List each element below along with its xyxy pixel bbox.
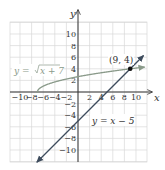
graph: −10−8−6−4−2246810108642−2−4−6−8−10 y x y…	[0, 0, 165, 170]
x-tick-label: 2	[87, 93, 92, 102]
x-tick-label: −6	[37, 93, 49, 102]
x-tick-label: 6	[110, 93, 115, 102]
sqrt-eq-body: x + 7	[40, 66, 64, 76]
y-axis-label: y	[69, 8, 76, 19]
x-tick-label: −8	[26, 93, 38, 102]
y-tick-label: 6	[71, 53, 76, 62]
svg-text:y =: y =	[13, 66, 30, 76]
point-label: (9, 4)	[109, 55, 133, 65]
y-tick-label: 4	[71, 65, 76, 74]
x-axis-label: x	[154, 92, 160, 103]
y-tick-label: −10	[59, 146, 76, 155]
intersection-point: (9, 4)	[108, 54, 134, 65]
linear-eq-text: y = x − 5	[91, 116, 135, 126]
y-tick-label: −4	[64, 111, 76, 120]
y-tick-label: 10	[66, 30, 76, 39]
x-tick-label: −4	[49, 93, 61, 102]
sqrt-equation-label: y = x + 7	[12, 64, 64, 76]
y-tick-label: 8	[71, 42, 76, 51]
intersection-dot	[128, 67, 133, 72]
y-tick-label: −2	[64, 100, 76, 109]
x-tick-label: 10	[131, 93, 141, 102]
y-tick-label: −8	[64, 134, 76, 143]
linear-equation-label: y = x − 5	[90, 114, 135, 126]
x-tick-label: 8	[122, 93, 127, 102]
